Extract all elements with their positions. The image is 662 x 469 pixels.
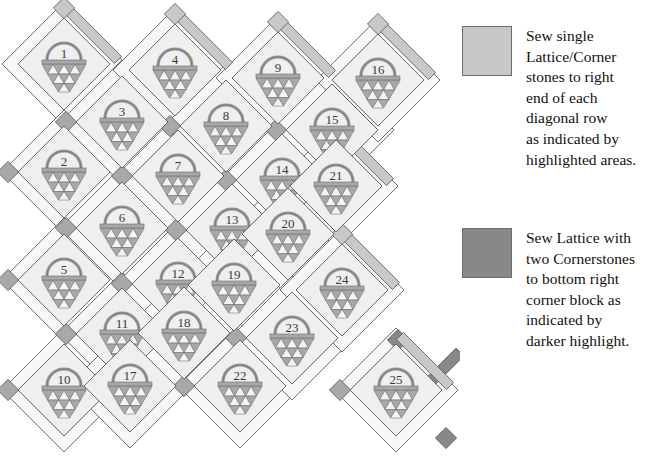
block-number: 13 [226, 212, 239, 227]
block-number: 12 [172, 266, 185, 281]
block-number: 15 [326, 112, 339, 127]
block-number: 24 [336, 272, 350, 287]
block-number: 3 [119, 104, 126, 119]
block-number: 19 [228, 267, 241, 282]
block-number: 20 [282, 216, 295, 231]
legend-text-dark: Sew Lattice with two Cornerstones to bot… [526, 228, 635, 352]
legend-item-light: Sew single Lattice/Corner stones to righ… [462, 26, 662, 170]
legend-text-light: Sew single Lattice/Corner stones to righ… [526, 26, 636, 170]
block-number: 2 [61, 154, 68, 169]
block-number: 5 [61, 262, 68, 277]
block-number: 6 [119, 210, 126, 225]
block-number: 14 [276, 162, 290, 177]
block-number: 16 [372, 62, 386, 77]
block-number: 21 [330, 168, 343, 183]
block-number: 7 [175, 158, 182, 173]
legend-item-dark: Sew Lattice with two Cornerstones to bot… [462, 228, 662, 352]
block-number: 11 [116, 316, 129, 331]
light-highlight-swatch [462, 26, 512, 76]
block-number: 10 [58, 372, 71, 387]
dark-highlight-swatch [462, 228, 512, 278]
quilt-layout-diagram: 1234567891011121314151617181920212223242… [0, 0, 460, 469]
block-number: 1 [61, 46, 68, 61]
block-number: 17 [124, 368, 138, 383]
block-number: 22 [234, 368, 247, 383]
quilt-diagram-page: 1234567891011121314151617181920212223242… [0, 0, 662, 469]
block-number: 23 [286, 320, 299, 335]
block-number: 25 [390, 372, 403, 387]
block-number: 9 [275, 60, 282, 75]
block-number: 8 [223, 108, 230, 123]
block-number: 4 [172, 52, 179, 67]
block-number: 18 [178, 315, 191, 330]
dark-cornerstone-bottom [435, 427, 456, 448]
